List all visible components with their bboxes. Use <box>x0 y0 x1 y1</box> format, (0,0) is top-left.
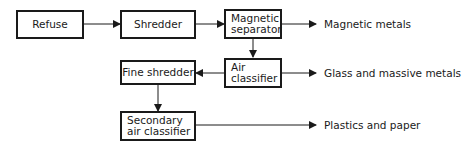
node-refuse: Refuse <box>16 10 84 39</box>
node-fine-shredder-label: Fine shredder <box>122 67 193 78</box>
node-shredder-label: Shredder <box>134 19 182 30</box>
node-secondary-line2: air classifier <box>127 126 194 137</box>
node-secondary-air-classifier: Secondary air classifier <box>120 111 196 141</box>
node-refuse-label: Refuse <box>32 19 68 30</box>
node-shredder: Shredder <box>120 10 196 39</box>
node-air-line2: classifier <box>231 73 280 84</box>
output-magnetic-metals: Magnetic metals <box>324 18 411 30</box>
node-magnetic-separator: Magnetic separator <box>224 9 282 39</box>
output-glass-metals: Glass and massive metals <box>324 67 461 79</box>
node-magsep-line2: separator <box>231 24 280 35</box>
node-air-classifier: Air classifier <box>224 58 282 88</box>
node-fine-shredder: Fine shredder <box>120 60 196 85</box>
output-plastics-paper: Plastics and paper <box>324 119 420 131</box>
